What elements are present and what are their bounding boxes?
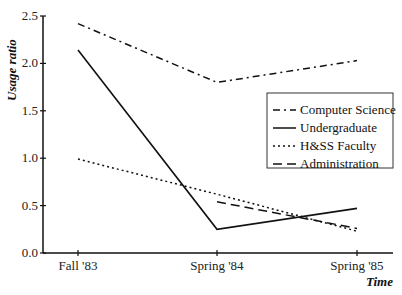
legend-label: Administration: [300, 156, 379, 171]
y-tick-label: 1.5: [22, 103, 38, 118]
y-tick-label: 1.0: [22, 150, 38, 165]
y-tick-label: 0.5: [22, 198, 38, 213]
y-tick-label: 2.5: [22, 8, 38, 23]
series-line-computer-science: [78, 24, 357, 83]
legend-label: Computer Science: [300, 102, 396, 117]
y-axis-title: Usage ratio: [4, 39, 19, 101]
series-line-administration: [217, 202, 357, 229]
legend-label: H&SS Faculty: [300, 138, 377, 153]
y-tick-label: 0.0: [22, 245, 38, 260]
legend: Computer ScienceUndergraduateH&SS Facult…: [267, 93, 396, 171]
x-tick-label: Fall '83: [59, 258, 98, 273]
line-chart: 0.00.51.01.52.02.5 Fall '83Spring '84Spr…: [0, 0, 402, 295]
x-tick-label: Spring '84: [190, 258, 244, 273]
x-axis-title: Time: [366, 274, 393, 289]
x-tick-label: Spring '85: [330, 258, 383, 273]
y-tick-label: 2.0: [22, 55, 38, 70]
legend-label: Undergraduate: [300, 120, 377, 135]
